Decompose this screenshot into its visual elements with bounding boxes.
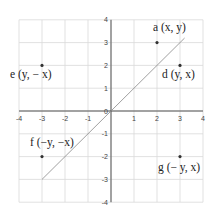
line-y-equals-x bbox=[42, 38, 185, 179]
point-e: e (y, − x) bbox=[10, 64, 52, 82]
y-tick-label: 1 bbox=[104, 85, 108, 92]
point-f: f (−y, −x) bbox=[30, 136, 74, 159]
y-tick-label: -1 bbox=[102, 130, 108, 137]
point-marker-f bbox=[40, 155, 43, 158]
point-label-f: f (−y, −x) bbox=[30, 136, 74, 149]
x-tick-label: -2 bbox=[62, 115, 68, 122]
x-tick-label: -4 bbox=[16, 115, 22, 122]
point-marker-e bbox=[40, 64, 43, 67]
coordinate-plane-chart: -4-3-2-1123443210-1-2-3-4 a (x, y)d (y, … bbox=[0, 0, 224, 215]
diagonal-line-y-equals-x bbox=[42, 38, 185, 179]
y-tick-label: 3 bbox=[104, 39, 108, 46]
point-g: g (− y, x) bbox=[158, 155, 200, 174]
point-marker-a bbox=[155, 41, 158, 44]
point-d: d (y, x) bbox=[162, 64, 195, 82]
point-a: a (x, y) bbox=[153, 21, 186, 45]
y-tick-label: -3 bbox=[102, 176, 108, 183]
x-tick-label: 4 bbox=[201, 115, 205, 122]
point-label-e: e (y, − x) bbox=[10, 68, 52, 81]
x-tick-label: 3 bbox=[178, 115, 182, 122]
point-label-g: g (− y, x) bbox=[158, 161, 200, 174]
y-tick-label: 0 bbox=[104, 108, 108, 115]
point-marker-d bbox=[178, 64, 181, 67]
y-tick-label: 4 bbox=[104, 16, 108, 23]
point-label-a: a (x, y) bbox=[153, 21, 186, 34]
x-tick-label: 2 bbox=[155, 115, 159, 122]
x-tick-label: -1 bbox=[85, 115, 91, 122]
x-tick-label: -3 bbox=[39, 115, 45, 122]
x-tick-label: 1 bbox=[132, 115, 136, 122]
y-tick-label: -4 bbox=[102, 199, 108, 206]
point-marker-g bbox=[178, 155, 181, 158]
y-tick-label: -2 bbox=[102, 153, 108, 160]
point-label-d: d (y, x) bbox=[162, 68, 195, 81]
y-tick-label: 2 bbox=[104, 62, 108, 69]
